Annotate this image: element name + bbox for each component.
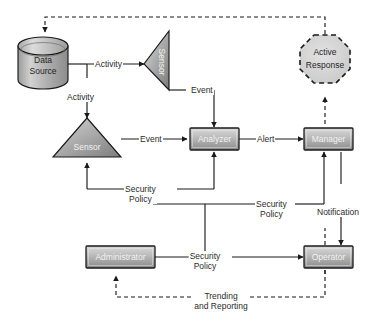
node-data-source[interactable]: Data Source (18, 37, 68, 89)
active-response-label-line1: Active (313, 47, 336, 57)
label-trending-reporting: Trending and Reporting (193, 291, 248, 311)
label-security-policy-admin: Security Policy (189, 251, 222, 271)
node-sensor-left[interactable]: Sensor (53, 118, 121, 157)
node-sensor-top[interactable]: Sensor (144, 31, 169, 90)
diagram-svg: Data Source Sensor Sensor Analyzer Manag… (0, 0, 369, 331)
active-response-label-line2: Response (306, 60, 345, 70)
manager-label: Manager (312, 134, 346, 144)
active-response-shape (300, 35, 350, 83)
label-security-policy-manager-line2: Policy (256, 209, 287, 219)
node-active-response[interactable]: Active Response (300, 35, 350, 83)
node-analyzer[interactable]: Analyzer (190, 128, 239, 150)
label-trending-line2: and Reporting (194, 301, 247, 311)
label-security-policy-sensor-line1: Security (125, 184, 156, 194)
data-source-top (18, 37, 68, 55)
diagram-canvas: Data Source Sensor Sensor Analyzer Manag… (0, 0, 369, 331)
data-source-label-line1: Data (34, 55, 52, 65)
label-trending-line1: Trending (194, 291, 247, 301)
data-source-label-line2: Source (30, 66, 57, 76)
sensor-left-label: Sensor (74, 142, 101, 152)
node-operator[interactable]: Operator (304, 246, 353, 268)
label-security-policy-manager-line1: Security (256, 199, 287, 209)
operator-label: Operator (312, 252, 346, 262)
label-security-policy-manager: Security Policy (255, 199, 288, 219)
node-manager[interactable]: Manager (304, 128, 353, 150)
sensor-top-label: Sensor (157, 49, 167, 76)
label-security-policy-sensor: Security Policy (124, 184, 157, 204)
label-notification: Notification (316, 207, 360, 217)
edge-feedback-datasource (45, 17, 325, 55)
analyzer-label: Analyzer (198, 134, 231, 144)
label-security-policy-admin-line1: Security (190, 251, 221, 261)
label-security-policy-admin-line2: Policy (190, 261, 221, 271)
administrator-label: Administrator (95, 252, 145, 262)
label-activity-sensor-left: Activity (66, 92, 95, 102)
label-alert: Alert (256, 134, 275, 144)
label-activity-sensor-top: Activity (94, 59, 123, 69)
label-event-sensor-left: Event (139, 134, 163, 144)
label-security-policy-sensor-line2: Policy (125, 194, 156, 204)
node-administrator[interactable]: Administrator (86, 246, 155, 268)
label-event-sensor-top: Event (190, 85, 214, 95)
